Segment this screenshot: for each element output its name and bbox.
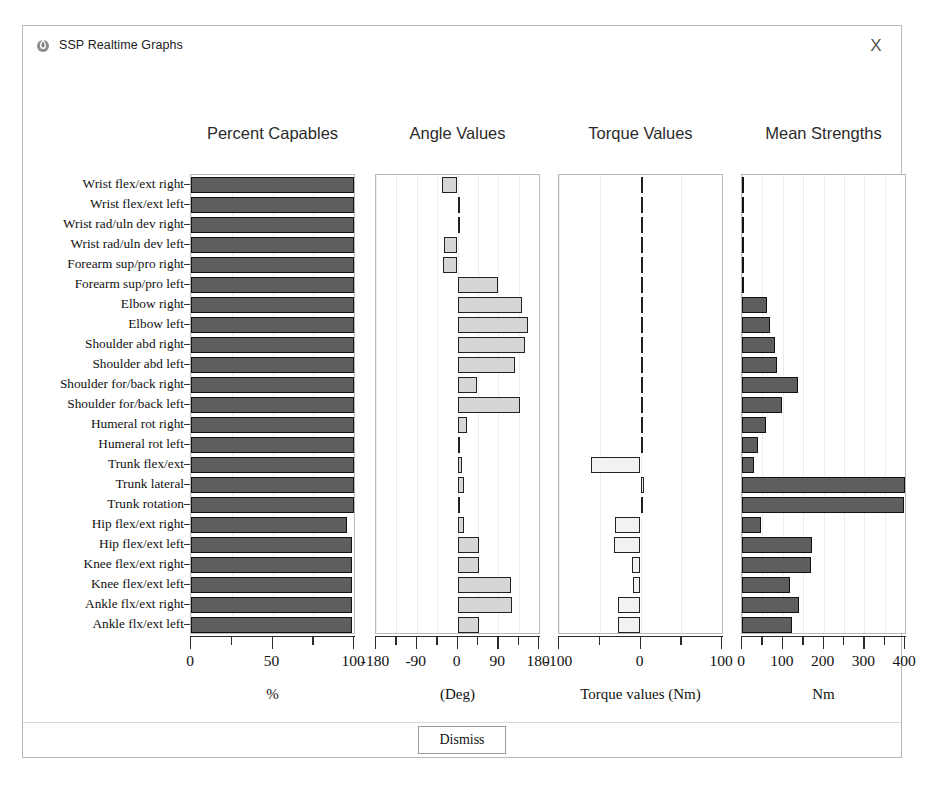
bar [641,477,644,493]
x-axis-2 [375,636,540,652]
x-axis-minor-tick [843,636,844,645]
joint-label: Wrist flex/ext left [90,197,184,210]
joint-label: Forearm sup/pro left [75,277,184,290]
x-tick-label: 0 [453,652,461,670]
x-tick-label: -100 [544,652,572,670]
joint-label: Shoulder for/back right [60,377,184,390]
joint-label: Ankle flx/ext left [92,617,184,630]
bar [458,337,525,353]
title-bar: SSP Realtime Graphs X [23,26,901,64]
bar [641,397,643,413]
gridline [864,175,865,633]
joint-label: Wrist flex/ext right [83,177,184,190]
charts-area: Wrist flex/ext rightWrist flex/ext leftW… [23,64,901,724]
bar [742,217,744,233]
bar [742,177,744,193]
bar [641,337,643,353]
x-axis-minor-tick [395,636,396,645]
plot-1 [190,174,355,634]
bar [191,257,354,273]
joint-label: Hip flex/ext left [99,537,184,550]
joint-label: Shoulder abd right [85,337,184,350]
bar [742,377,798,393]
joint-label: Shoulder for/back left [67,397,184,410]
bar [641,317,643,333]
joint-label: Wrist rad/uln dev left [70,237,184,250]
bar [458,617,480,633]
bar [742,537,812,553]
x-axis-4 [741,636,906,652]
bar [641,417,643,433]
x-axis-minor-tick [884,636,885,645]
gridline [600,175,601,633]
bar [458,577,512,593]
bar [191,397,354,413]
x-axis-tick [497,636,498,649]
bar [641,197,643,213]
x-axis-tick [904,636,905,649]
x-axis-tick [375,636,376,649]
x-tick-label: 400 [892,652,915,670]
bar [742,577,790,593]
bar [191,437,354,453]
x-axis-caption-1: % [266,686,279,703]
bar [458,297,523,313]
x-axis-caption-4: Nm [812,686,835,703]
x-axis-tick [416,636,417,649]
bar [458,397,520,413]
bar [742,477,905,493]
panel-title-3: Torque Values [558,124,723,143]
x-tick-label: -90 [405,652,426,670]
bar [191,457,354,473]
x-tick-label: 200 [811,652,834,670]
joint-label: Trunk rotation [107,497,184,510]
bar [191,377,354,393]
bar [191,297,354,313]
bar [742,237,744,253]
app-flame-icon [35,37,51,53]
joint-label: Hip flex/ext right [92,517,184,530]
x-tick-label: 100 [770,652,793,670]
bar [742,197,744,213]
bar [191,477,354,493]
bar [458,477,464,493]
x-tick-label: -180 [361,652,389,670]
bar [614,537,641,553]
bar [615,517,640,533]
bar [742,257,744,273]
gridline [905,175,906,633]
plot-4 [741,174,906,634]
bar [191,357,354,373]
bar [191,317,354,333]
bar [742,357,777,373]
bar [458,317,528,333]
x-axis-minor-tick [802,636,803,645]
close-icon[interactable]: X [865,34,887,56]
gridline [844,175,845,633]
gridline [417,175,418,633]
bar [191,597,352,613]
plot-2 [375,174,540,634]
bar [191,617,352,633]
bar [641,377,643,393]
x-axis-tick [782,636,783,649]
gridline [437,175,438,633]
bar [191,197,354,213]
x-tick-label: 100 [709,652,732,670]
bar [742,337,775,353]
bar [191,337,354,353]
x-axis-minor-tick [231,636,232,645]
gridline [885,175,886,633]
x-tick-label: 0 [737,652,745,670]
bar [641,277,643,293]
gridline [376,175,377,633]
bar [458,417,467,433]
dismiss-button[interactable]: Dismiss [418,726,505,753]
bar [641,177,643,193]
gridline [354,175,355,633]
bar [742,277,744,293]
bar [641,357,643,373]
bar [458,517,464,533]
bar [632,557,640,573]
gridline [681,175,682,633]
